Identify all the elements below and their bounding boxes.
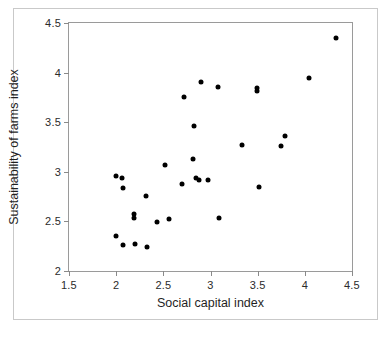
y-axis-tick-label: 3 [55, 166, 61, 178]
scatter-plot-figure: 22.533.544.51.522.533.544.5 Social capit… [0, 0, 391, 338]
y-axis-tick [64, 73, 69, 74]
y-axis-tick-label: 2.5 [45, 215, 61, 227]
data-point [133, 242, 138, 247]
y-axis-tick-label: 3.5 [45, 116, 61, 128]
data-point [166, 217, 171, 222]
data-point [254, 89, 259, 94]
y-axis-tick [64, 221, 69, 222]
data-point [145, 245, 150, 250]
data-point [114, 234, 119, 239]
x-axis-tick [352, 271, 353, 276]
data-point [283, 134, 288, 139]
data-point [306, 75, 311, 80]
x-axis-tick-label: 4.5 [344, 279, 360, 291]
data-point [279, 144, 284, 149]
y-axis-tick [64, 23, 69, 24]
x-axis-tick-label: 4 [302, 279, 308, 291]
data-point [256, 184, 261, 189]
data-point [333, 35, 338, 40]
data-point [132, 216, 137, 221]
y-axis-tick [64, 172, 69, 173]
x-axis-tick-label: 3.5 [250, 279, 266, 291]
x-axis-tick [116, 271, 117, 276]
x-axis-tick-label: 2 [113, 279, 119, 291]
y-axis-tick [64, 122, 69, 123]
data-point [154, 220, 159, 225]
data-point [216, 85, 221, 90]
data-point [119, 175, 124, 180]
x-axis-tick [305, 271, 306, 276]
y-axis-tick-label: 4.5 [45, 17, 61, 29]
data-point [114, 173, 119, 178]
x-axis-tick-label: 3 [207, 279, 213, 291]
data-point [197, 177, 202, 182]
x-axis-tick-label: 2.5 [155, 279, 171, 291]
data-point [163, 162, 168, 167]
data-point [199, 79, 204, 84]
x-axis-tick [69, 271, 70, 276]
x-axis-tick [211, 271, 212, 276]
data-point [144, 193, 149, 198]
data-point [120, 185, 125, 190]
plot-area: 22.533.544.51.522.533.544.5 [68, 22, 353, 272]
data-point [239, 143, 244, 148]
x-axis-tick [163, 271, 164, 276]
data-point [192, 124, 197, 129]
y-axis-tick-label: 2 [55, 265, 61, 277]
data-point [120, 243, 125, 248]
data-point [180, 181, 185, 186]
y-axis-tick-label: 4 [55, 67, 61, 79]
data-point [205, 177, 210, 182]
data-point [190, 156, 195, 161]
x-axis-tick-label: 1.5 [61, 279, 77, 291]
data-point [216, 216, 221, 221]
x-axis-title: Social capital index [68, 296, 353, 310]
y-axis-title: Sustainability of farms index [7, 69, 21, 225]
x-axis-tick [258, 271, 259, 276]
data-point [182, 95, 187, 100]
